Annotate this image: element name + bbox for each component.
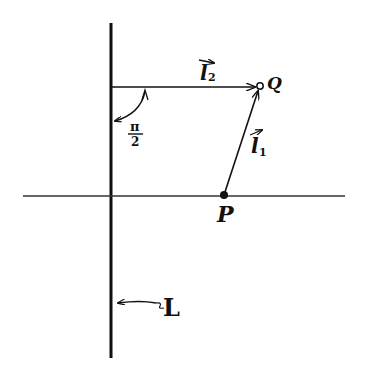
diagram-canvas: π 2 l 2 l 1 Q P L <box>0 0 367 377</box>
angle-label-denominator: 2 <box>131 135 139 149</box>
angle-arc-arrow-top <box>142 90 148 100</box>
point-Q-label: Q <box>267 73 282 93</box>
vector-l2-subscript: 2 <box>208 71 216 84</box>
angle-label-numerator: π <box>130 119 140 134</box>
point-Q-marker <box>257 83 263 89</box>
vector-l2-label: l <box>200 61 208 85</box>
line-L-pointer <box>118 302 156 304</box>
point-P-marker <box>220 191 228 199</box>
angle-arc <box>115 92 145 121</box>
point-P-label: P <box>216 201 235 227</box>
line-L-label: L <box>163 293 180 322</box>
vector-l1-label: l <box>251 134 259 158</box>
vector-l1-subscript: 1 <box>259 146 267 159</box>
